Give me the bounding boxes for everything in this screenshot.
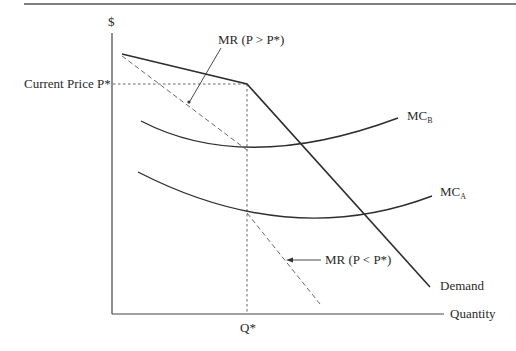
mc-b-label: MCB (407, 108, 433, 125)
arrowhead-icon (286, 258, 293, 263)
quantity-star-label: Q* (240, 320, 256, 335)
mr-lower-label: MR (P < P*) (325, 252, 391, 267)
mr-upper-pointer (190, 48, 221, 101)
kinked-demand-diagram: $ Current Price P* Q* Quantity Demand MR… (0, 0, 516, 351)
price-label: Current Price P* (24, 76, 111, 91)
mr-upper-line (122, 56, 247, 150)
y-axis-label: $ (108, 14, 115, 29)
mr-lower-line (247, 213, 320, 304)
mc-b-curve (141, 118, 398, 147)
mc-a-label: MCA (440, 184, 466, 201)
mr-upper-label: MR (P > P*) (218, 32, 284, 47)
mr-upper-pointer-dot (187, 100, 190, 103)
x-axis-label: Quantity (450, 306, 496, 321)
mc-a-curve (138, 172, 432, 218)
demand-label: Demand (440, 278, 485, 293)
